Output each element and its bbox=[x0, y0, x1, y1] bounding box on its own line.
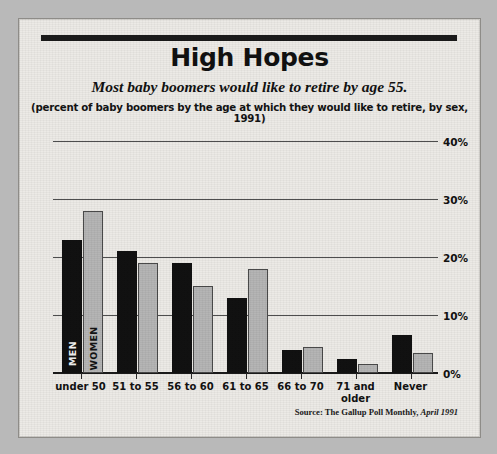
bar-women[interactable] bbox=[138, 263, 158, 373]
bar-group bbox=[172, 141, 213, 373]
y-axis-tick-label: 20% bbox=[443, 251, 481, 264]
bar-group bbox=[282, 141, 323, 373]
bar-women[interactable] bbox=[303, 347, 323, 373]
bar-women[interactable] bbox=[413, 353, 433, 373]
bar-group bbox=[337, 141, 378, 373]
bar-group bbox=[117, 141, 158, 373]
x-axis-tick bbox=[246, 373, 247, 379]
x-axis-tick bbox=[191, 373, 192, 379]
bar-women[interactable] bbox=[193, 286, 213, 373]
chart-subtitle: Most baby boomers would like to retire b… bbox=[19, 78, 480, 96]
y-axis-tick-label: 40% bbox=[443, 135, 481, 148]
chart-caption: (percent of baby boomers by the age at w… bbox=[19, 102, 480, 124]
bar-group bbox=[392, 141, 433, 373]
x-axis-tick bbox=[136, 373, 137, 379]
bar-men[interactable] bbox=[337, 359, 357, 374]
bar-women[interactable]: WOMEN bbox=[83, 211, 103, 373]
x-axis-tick bbox=[411, 373, 412, 379]
bar-women[interactable] bbox=[358, 364, 378, 373]
bar-men[interactable] bbox=[392, 335, 412, 373]
bar-men[interactable] bbox=[227, 298, 247, 373]
source-note: Source: The Gallup Poll Monthly, April 1… bbox=[295, 407, 458, 417]
bar-women[interactable] bbox=[248, 269, 268, 373]
y-axis-tick-label: 10% bbox=[443, 309, 481, 322]
x-axis-tick bbox=[301, 373, 302, 379]
series-label-men: MEN bbox=[67, 341, 78, 366]
bar-men[interactable] bbox=[117, 251, 137, 373]
source-prefix: Source: The Gallup Poll Monthly, bbox=[295, 407, 419, 417]
x-axis-tick bbox=[81, 373, 82, 379]
bar-group bbox=[227, 141, 268, 373]
bar-men[interactable] bbox=[282, 350, 302, 373]
chart-title: High Hopes bbox=[19, 43, 480, 72]
x-axis-tick bbox=[356, 373, 357, 379]
bar-men[interactable] bbox=[172, 263, 192, 373]
bar-group: MENWOMEN bbox=[62, 141, 103, 373]
source-date: April 1991 bbox=[421, 407, 458, 417]
y-axis-tick-label: 30% bbox=[443, 193, 481, 206]
chart-figure: High Hopes Most baby boomers would like … bbox=[18, 18, 481, 438]
series-label-women: WOMEN bbox=[88, 327, 99, 371]
title-rule bbox=[41, 35, 457, 41]
plot-area: 0%10%20%30%40%MENWOMEN bbox=[53, 141, 438, 373]
x-axis-label: Never bbox=[374, 381, 448, 393]
y-axis-tick-label: 0% bbox=[443, 367, 481, 380]
bar-men[interactable]: MEN bbox=[62, 240, 82, 373]
